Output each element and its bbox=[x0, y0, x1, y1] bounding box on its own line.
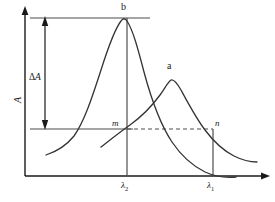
point-n-label: n bbox=[215, 119, 220, 128]
y-axis-arrowhead bbox=[22, 6, 29, 15]
x-tick-lambda1: λ1 bbox=[207, 181, 214, 192]
peak-a-label: a bbox=[167, 61, 171, 71]
lambda2-subscript: 2 bbox=[125, 185, 128, 192]
x-tick-lambda2: λ2 bbox=[121, 181, 128, 192]
curve-b bbox=[46, 19, 236, 178]
delta-variable: A bbox=[35, 72, 41, 82]
lambda1-subscript: 1 bbox=[211, 185, 214, 192]
axes-group bbox=[22, 6, 270, 179]
x-axis-arrowhead bbox=[261, 173, 270, 180]
curve-a bbox=[101, 80, 257, 162]
delta-a-label: ΔA bbox=[29, 73, 41, 83]
guide-lines-group bbox=[30, 18, 213, 176]
chart-canvas bbox=[0, 0, 275, 202]
y-axis-label: A bbox=[13, 97, 23, 103]
absorbance-spectrum-figure: A ΔA b a m n λ2 λ1 bbox=[0, 0, 275, 202]
curves-group bbox=[46, 19, 257, 178]
point-m-label: m bbox=[112, 119, 119, 128]
delta-a-arrow bbox=[42, 16, 48, 130]
peak-b-label: b bbox=[121, 2, 126, 12]
